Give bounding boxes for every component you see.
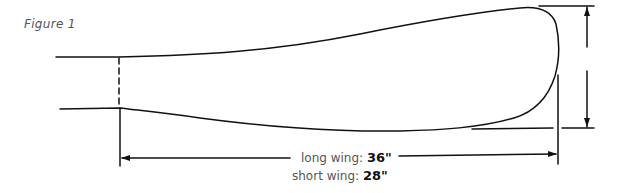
arrowhead-down [584,118,590,127]
arrowhead-up [584,7,590,16]
long-wing-value: 36" [367,150,392,165]
arrowhead-right [548,151,557,157]
wing-top-edge [56,8,559,131]
short-wing-value: 28" [363,168,388,183]
long-wing-dimension: long wing: 36" [301,150,392,165]
arrowhead-left [121,155,130,161]
length-arrow-line-right [399,154,556,156]
short-wing-dimension: short wing: 28" [292,168,388,183]
bottom-chord-line [472,128,594,129]
long-wing-label: long wing: [301,151,367,165]
short-wing-label: short wing: [292,169,363,183]
